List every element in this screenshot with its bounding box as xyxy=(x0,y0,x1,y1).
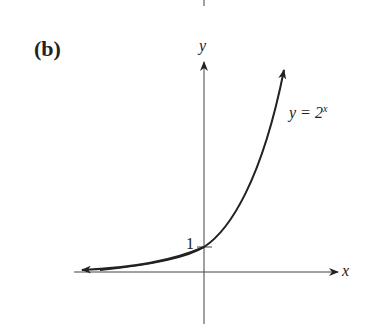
y-tick-label: 1 xyxy=(186,235,194,253)
y-axis-label: y xyxy=(199,37,206,55)
x-axis-label: x xyxy=(342,262,349,280)
equation-exponent: x xyxy=(323,103,327,114)
plot-area xyxy=(0,0,371,336)
equation-base: y = 2 xyxy=(289,104,323,121)
equation-label: y = 2x xyxy=(289,103,327,122)
